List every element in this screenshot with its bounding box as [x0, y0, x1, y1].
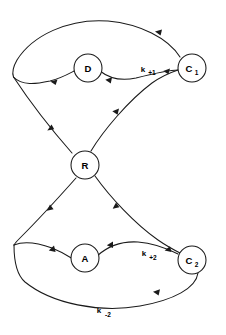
arrowhead-cusp-bottom-to-a [49, 246, 56, 252]
rate-label-k-minus-2: k -2 [97, 306, 112, 318]
node-r[interactable]: R [71, 151, 99, 179]
node-c2-subscript: 2 [195, 261, 199, 268]
node-a[interactable]: A [71, 244, 99, 272]
node-d-label: D [85, 63, 92, 74]
edge-cusp-top-to-r [14, 77, 73, 153]
rate-label-k-plus-2: k +2 [142, 249, 157, 261]
arrowhead-c1-to-cusp-top [155, 29, 162, 35]
node-c1[interactable]: C 1 [178, 54, 206, 82]
rate-label-k-plus-1-base: k [141, 65, 146, 74]
arrowhead-cusp-bottom-to-r [47, 205, 54, 211]
arrowhead-c2-to-cusp-bottom [153, 289, 160, 295]
node-r-label: R [82, 160, 89, 171]
reaction-scheme-diagram: D C 1 R A C 2 k +1 k +2 [0, 0, 226, 335]
node-c1-subscript: 1 [195, 69, 199, 76]
rate-label-k-plus-2-subscript: +2 [149, 254, 157, 261]
edge-r-to-cusp-bottom [14, 178, 76, 245]
edge-cusp-top-to-d [14, 70, 77, 84]
node-c1-label: C [186, 63, 193, 74]
rate-label-k-plus-2-base: k [142, 249, 147, 258]
node-d[interactable]: D [74, 54, 102, 82]
rate-label-k-minus-2-base: k [97, 306, 102, 315]
rate-label-k-plus-1-subscript: +1 [148, 69, 156, 76]
rate-label-k-minus-2-subscript: -2 [105, 311, 111, 318]
arrowhead-d-exit [105, 77, 112, 83]
rate-label-k-plus-1: k +1 [141, 65, 156, 77]
node-c2-label: C [186, 255, 193, 266]
edge-cusp-bottom-to-a [14, 243, 73, 259]
arrowhead-r-to-c1 [112, 109, 119, 115]
edge-c2-to-cusp-bottom [14, 245, 198, 308]
scheme-canvas: D C 1 R A C 2 k +1 k +2 [0, 0, 226, 335]
node-c2[interactable]: C 2 [178, 246, 206, 274]
node-a-label: A [82, 253, 89, 264]
arrowhead-r-to-c2 [113, 203, 120, 209]
edge-r-to-c1 [91, 70, 178, 151]
